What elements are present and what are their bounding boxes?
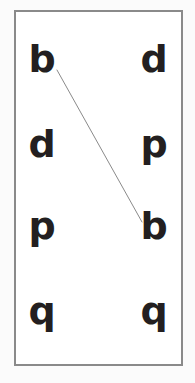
letter-row3-right[interactable]: b (134, 207, 174, 245)
letter-row2-left[interactable]: d (22, 125, 62, 163)
letter-row4-left[interactable]: q (22, 292, 62, 330)
letter-row2-right[interactable]: p (134, 125, 174, 163)
letter-matching-canvas: b d d p p b q q (0, 0, 195, 383)
letter-row1-left[interactable]: b (22, 40, 62, 78)
letter-row1-right[interactable]: d (134, 40, 174, 78)
letter-row3-left[interactable]: p (22, 207, 62, 245)
letter-row4-right[interactable]: q (134, 292, 174, 330)
